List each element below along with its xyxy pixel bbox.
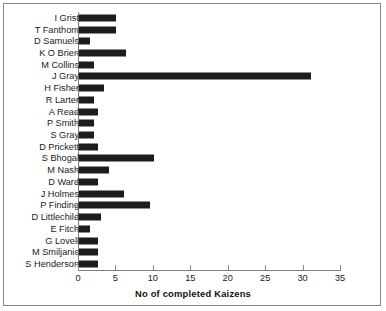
bar	[79, 38, 90, 45]
category-label: D Prickett	[39, 142, 79, 152]
y-axis-tick	[75, 76, 78, 77]
x-axis-tick-label: 25	[260, 273, 270, 283]
x-axis-ticks: No of completed Kaizens 05101520253035	[0, 265, 386, 311]
category-label: G Lovell	[45, 236, 79, 246]
y-axis-tick	[75, 170, 78, 171]
bar	[79, 167, 109, 174]
x-axis-tick	[190, 265, 191, 270]
y-axis-tick	[75, 88, 78, 89]
x-axis-tick-label: 10	[148, 273, 158, 283]
bar-row: P Finding	[0, 200, 386, 212]
category-label: K O Brien	[39, 48, 79, 58]
bar	[79, 237, 98, 244]
bar	[79, 178, 98, 185]
bar-row: A Read	[0, 106, 386, 118]
x-axis-tick-label: 15	[185, 273, 195, 283]
y-axis-tick	[75, 205, 78, 206]
bar	[79, 14, 116, 21]
x-axis-tick	[303, 265, 304, 270]
bar	[79, 85, 104, 92]
bar-row: D Ward	[0, 176, 386, 188]
bar-row: M Nash	[0, 164, 386, 176]
x-axis-tick	[265, 265, 266, 270]
bar-row: J Holmes	[0, 188, 386, 200]
y-axis-tick	[75, 65, 78, 66]
bar-row: J Gray	[0, 71, 386, 83]
category-label: T Fanthom	[35, 25, 79, 35]
chart-figure: I GristT FanthomD SamuelsK O BrienM Coll…	[0, 0, 386, 311]
bar-row: D Littlechild	[0, 211, 386, 223]
y-axis-tick	[75, 241, 78, 242]
bar	[79, 190, 124, 197]
x-axis-title: No of completed Kaizens	[0, 288, 386, 299]
y-axis-tick	[75, 135, 78, 136]
y-axis-tick	[75, 41, 78, 42]
x-axis-tick-label: 0	[75, 273, 80, 283]
bar	[79, 108, 98, 115]
y-axis-tick	[75, 123, 78, 124]
bar-row: P Smith	[0, 117, 386, 129]
category-label: D Littlechild	[32, 212, 80, 222]
bar-row: K O Brien	[0, 47, 386, 59]
bar	[79, 96, 94, 103]
bar-row: E Fitch	[0, 223, 386, 235]
y-axis-tick	[75, 100, 78, 101]
bar	[79, 61, 94, 68]
y-axis-tick	[75, 158, 78, 159]
bar-row: S Bhogal	[0, 153, 386, 165]
bar-row: R Larter	[0, 94, 386, 106]
category-label: J Holmes	[41, 189, 79, 199]
x-axis-tick	[153, 265, 154, 270]
x-axis-tick	[115, 265, 116, 270]
x-axis-tick	[78, 265, 79, 270]
category-label: H Fisher	[44, 83, 79, 93]
y-axis-tick	[75, 194, 78, 195]
y-axis-tick	[75, 112, 78, 113]
x-axis-tick	[228, 265, 229, 270]
bar-row: D Prickett	[0, 141, 386, 153]
bar	[79, 26, 116, 33]
bar-row: T Fanthom	[0, 24, 386, 36]
y-axis-tick	[75, 53, 78, 54]
bar	[79, 202, 150, 209]
bar	[79, 143, 98, 150]
bar-row: G Lovell	[0, 235, 386, 247]
bar	[79, 132, 94, 139]
x-axis-tick-label: 5	[113, 273, 118, 283]
bar-row: M Smiljanic	[0, 246, 386, 258]
x-axis-tick-label: 20	[223, 273, 233, 283]
y-axis-tick	[75, 229, 78, 230]
bar-row: S Gray	[0, 129, 386, 141]
bar-row: I Grist	[0, 12, 386, 24]
y-axis-tick	[75, 217, 78, 218]
bar-rows-container: I GristT FanthomD SamuelsK O BrienM Coll…	[0, 12, 386, 270]
bar-row: D Samuels	[0, 35, 386, 47]
bar	[79, 73, 311, 80]
x-axis-tick	[340, 265, 341, 270]
y-axis-tick	[75, 182, 78, 183]
bar	[79, 214, 101, 221]
x-axis-tick-label: 30	[297, 273, 307, 283]
bar-row: H Fisher	[0, 82, 386, 94]
bar	[79, 249, 98, 256]
bar	[79, 225, 90, 232]
bar	[79, 155, 154, 162]
bar	[79, 50, 126, 57]
bar-row: M Collins	[0, 59, 386, 71]
x-axis-tick-label: 35	[335, 273, 345, 283]
y-axis-tick	[75, 252, 78, 253]
category-label: P Finding	[40, 200, 79, 210]
category-label: M Smiljanic	[32, 247, 79, 257]
category-label: D Samuels	[34, 36, 79, 46]
y-axis-tick	[75, 147, 78, 148]
y-axis-tick	[75, 30, 78, 31]
y-axis-tick	[75, 18, 78, 19]
bar	[79, 120, 94, 127]
category-label: S Bhogal	[42, 153, 79, 163]
category-label: M Collins	[41, 60, 79, 70]
